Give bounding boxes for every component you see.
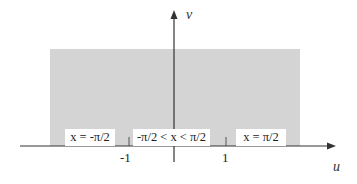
diagram-svg bbox=[0, 0, 357, 184]
v-axis-arrow-icon bbox=[171, 10, 178, 19]
label-left-boundary: x = -π/2 bbox=[65, 129, 115, 146]
tick-label-minus-one: -1 bbox=[120, 150, 131, 166]
diagram-canvas: x = -π/2 -π/2 < x < π/2 x = π/2 -1 1 u v bbox=[0, 0, 357, 184]
label-middle-region: -π/2 < x < π/2 bbox=[133, 129, 210, 146]
u-axis-label: u bbox=[333, 159, 340, 175]
v-axis-label: v bbox=[186, 7, 192, 23]
label-right-boundary: x = π/2 bbox=[236, 129, 286, 146]
u-axis-arrow-icon bbox=[327, 143, 336, 150]
tick-label-plus-one: 1 bbox=[222, 150, 229, 166]
